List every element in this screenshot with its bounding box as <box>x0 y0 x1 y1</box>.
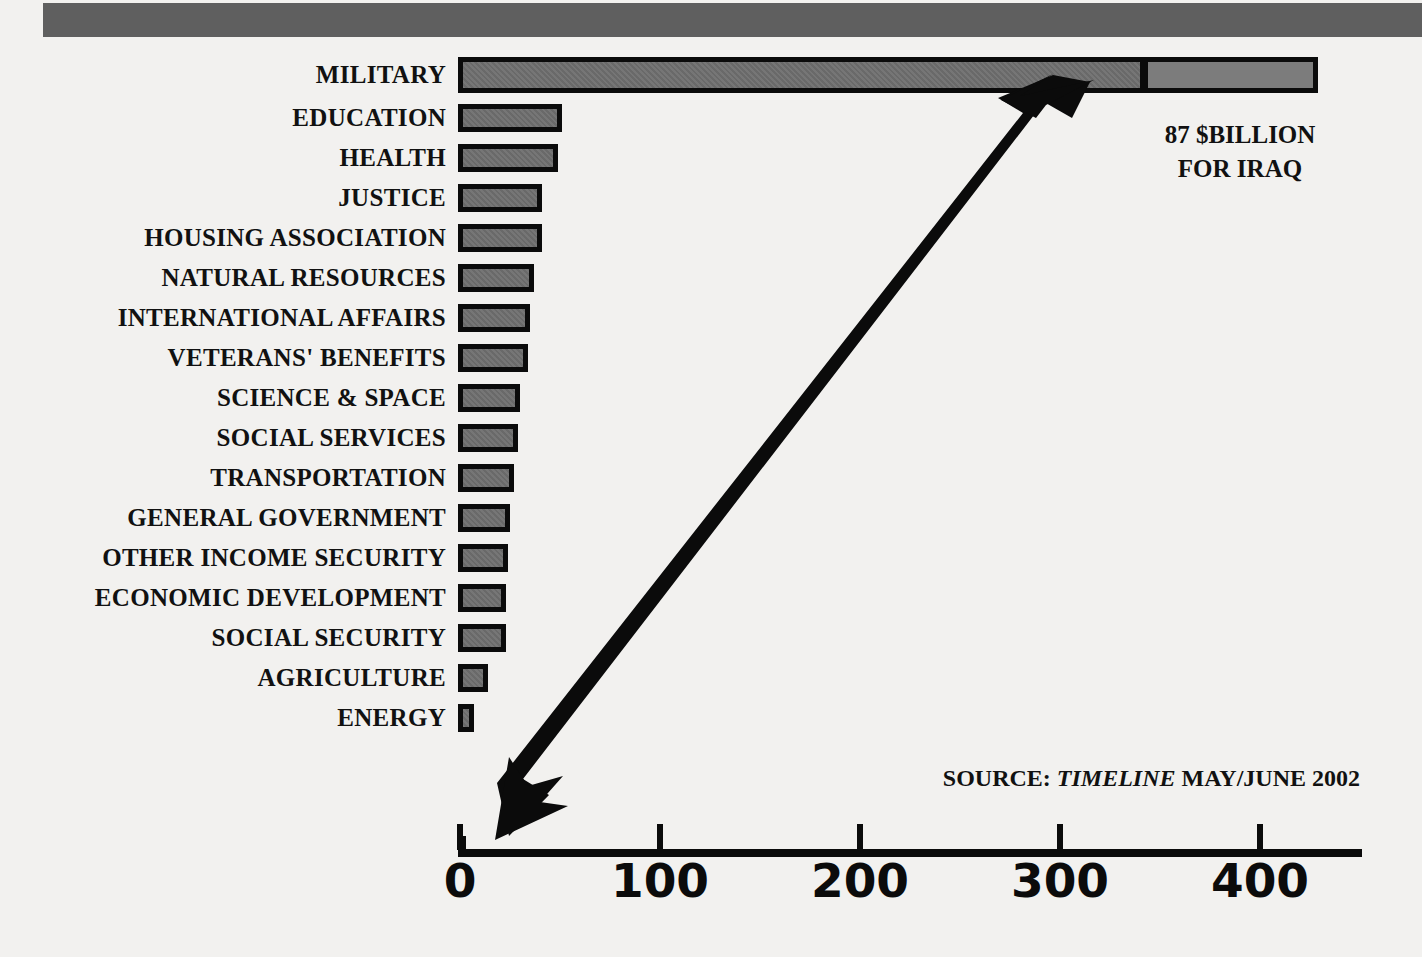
bar-group <box>458 344 528 372</box>
bar-segment-base <box>458 464 514 492</box>
bar-group <box>458 304 530 332</box>
iraq-callout: 87 $BILLION FOR IRAQ <box>1090 118 1390 186</box>
horizontal-bar-chart: MILITARYEDUCATIONHEALTHJUSTICEHOUSING AS… <box>0 0 1422 957</box>
bar-segment-base <box>458 144 558 172</box>
bar-segment-base <box>458 424 518 452</box>
category-label: SOCIAL SECURITY <box>0 618 446 658</box>
category-label: SOCIAL SERVICES <box>0 418 446 458</box>
category-label: HOUSING ASSOCIATION <box>0 218 446 258</box>
category-label: GENERAL GOVERNMENT <box>0 498 446 538</box>
source-suffix: MAY/JUNE 2002 <box>1176 765 1360 791</box>
bar-row: ENERGY <box>0 698 1422 738</box>
category-label: VETERANS' BENEFITS <box>0 338 446 378</box>
bar-group <box>458 224 542 252</box>
bar-segment-base <box>458 264 534 292</box>
category-label: TRANSPORTATION <box>0 458 446 498</box>
source-note: SOURCE: TIMELINE MAY/JUNE 2002 <box>780 765 1360 792</box>
x-axis-tick-label: 0 <box>390 856 530 905</box>
x-axis-tick <box>857 824 863 850</box>
bar-segment-base <box>458 664 488 692</box>
bar-group <box>458 504 510 532</box>
bar-segment-base <box>458 344 528 372</box>
bar-group <box>458 664 488 692</box>
bar-row: SOCIAL SERVICES <box>0 418 1422 458</box>
bar-segment-base <box>458 224 542 252</box>
bar-group <box>458 464 514 492</box>
bar-group <box>458 424 518 452</box>
bar-segment-base <box>458 57 1144 93</box>
iraq-callout-line1: 87 $BILLION <box>1090 118 1390 152</box>
bar-segment-base <box>458 584 506 612</box>
bar-segment-base <box>458 704 474 732</box>
bar-row: GENERAL GOVERNMENT <box>0 498 1422 538</box>
bar-group <box>458 57 1318 93</box>
bar-row: INTERNATIONAL AFFAIRS <box>0 298 1422 338</box>
bar-row: AGRICULTURE <box>0 658 1422 698</box>
x-axis-tick-label: 100 <box>590 856 730 905</box>
bar-row: OTHER INCOME SECURITY <box>0 538 1422 578</box>
bar-group <box>458 384 520 412</box>
x-axis-tick <box>657 824 663 850</box>
bar-row: SCIENCE & SPACE <box>0 378 1422 418</box>
bar-row: ECONOMIC DEVELOPMENT <box>0 578 1422 618</box>
category-label: HEALTH <box>0 138 446 178</box>
x-axis-tick <box>1257 824 1263 850</box>
category-label: SCIENCE & SPACE <box>0 378 446 418</box>
x-axis-tick <box>457 824 463 850</box>
bar-row: HOUSING ASSOCIATION <box>0 218 1422 258</box>
bar-segment-base <box>458 184 542 212</box>
bar-segment-iraq <box>1144 57 1318 93</box>
x-axis-tick-label: 400 <box>1190 856 1330 905</box>
iraq-callout-line2: FOR IRAQ <box>1090 152 1390 186</box>
bar-row: SOCIAL SECURITY <box>0 618 1422 658</box>
bar-segment-base <box>458 624 506 652</box>
source-prefix: SOURCE: <box>943 765 1057 791</box>
bar-segment-base <box>458 384 520 412</box>
bar-group <box>458 704 474 732</box>
category-label: MILITARY <box>0 52 446 98</box>
category-label: OTHER INCOME SECURITY <box>0 538 446 578</box>
category-label: EDUCATION <box>0 98 446 138</box>
source-publication: TIMELINE <box>1057 765 1176 791</box>
bar-group <box>458 584 506 612</box>
bar-group <box>458 104 562 132</box>
bar-group <box>458 264 534 292</box>
x-axis-tick <box>1057 824 1063 850</box>
category-label: ENERGY <box>0 698 446 738</box>
bar-segment-base <box>458 504 510 532</box>
bar-group <box>458 544 508 572</box>
bar-group <box>458 184 542 212</box>
bar-group <box>458 144 558 172</box>
bar-row: NATURAL RESOURCES <box>0 258 1422 298</box>
bar-group <box>458 624 506 652</box>
bar-segment-base <box>458 304 530 332</box>
category-label: INTERNATIONAL AFFAIRS <box>0 298 446 338</box>
x-axis-tick-label: 300 <box>990 856 1130 905</box>
x-axis-tick-label: 200 <box>790 856 930 905</box>
bar-row: VETERANS' BENEFITS <box>0 338 1422 378</box>
bar-segment-base <box>458 544 508 572</box>
category-label: AGRICULTURE <box>0 658 446 698</box>
bar-row: TRANSPORTATION <box>0 458 1422 498</box>
category-label: NATURAL RESOURCES <box>0 258 446 298</box>
bar-segment-base <box>458 104 562 132</box>
category-label: JUSTICE <box>0 178 446 218</box>
category-label: ECONOMIC DEVELOPMENT <box>0 578 446 618</box>
bar-row: MILITARY <box>0 52 1422 98</box>
